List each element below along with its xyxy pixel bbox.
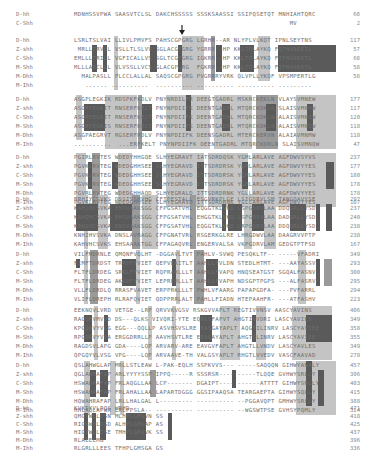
species-label: M-Shh xyxy=(16,333,33,342)
species-label: C-Shh xyxy=(16,113,33,122)
species-label: M-Ihh xyxy=(16,140,33,149)
sequence-text: ASGPLEGKIK RDSPKFKDLV PNYNRDILFR DEEGTGA… xyxy=(74,95,336,104)
sequence-row: M-Dhh ASGPAEGRVT RGSERFRDLV PNYNPDIIFK D… xyxy=(0,131,374,140)
position-number: 177 xyxy=(350,162,360,171)
species-label: Z-shh xyxy=(16,259,33,268)
position-number: 406 xyxy=(350,306,360,315)
position-number: 120 xyxy=(350,113,360,122)
position-number: 117 xyxy=(350,104,360,113)
position-number: 58 xyxy=(353,63,360,72)
sequence-text: RAGDSVLAPG GDA----LQP ARVARV-ARE EAVGVFA… xyxy=(74,342,336,351)
position-number: 294 xyxy=(350,286,360,295)
sequence-row: D-hh PGIRLRVTES WDEDYHHGQE SLHYEGRAVT IA… xyxy=(0,153,374,162)
position-number: 457 xyxy=(350,361,360,370)
position-number: 118 xyxy=(350,122,360,131)
sequence-text: QGLAHRAFAP ARLYYYYSSP IPPQ-----R SSSRSR-… xyxy=(74,370,336,379)
position-number: 297 xyxy=(350,195,360,204)
position-number: 336 xyxy=(350,444,360,453)
position-number: 349 xyxy=(350,342,360,351)
position-number: 293 xyxy=(350,259,360,268)
sequence-text: RAGQRVMVVD DS---QLKS VIVQRI-YTE EQRGSFAP… xyxy=(74,315,336,324)
position-number: 349 xyxy=(350,315,360,324)
sequence-text: LSRLTSLVAI LLIVLPMVFS PAHSCGPGRG LGRHR--… xyxy=(74,36,336,45)
sequence-text: QPGQYVLVSG VPG----LQP ARVAAVE-TH VALGSYA… xyxy=(74,351,336,360)
position-number: 396 xyxy=(350,370,360,379)
sequence-text: ASGRYEGKIS RNSERFKELT PNYNPDIIFK DEENTGA… xyxy=(74,122,336,131)
sequence-text: KAHVHCSVKS EHSAAAKTGG CFPAGAQVRL ENGERVA… xyxy=(74,240,336,249)
sequence-text: KPGQRVYVLG EGG---QQLLP ASVHSVSLRE EASGAY… xyxy=(74,324,336,333)
sequence-text: FIMFTDRDST TRRVFYVIET QEPVEKITLT AAHLLFV… xyxy=(74,259,336,268)
species-label: M-Shh xyxy=(16,122,33,131)
sequence-text: PGIRLRVTES WDEDYHHGQE SLHYEGRAVT IATSDRD… xyxy=(74,153,336,162)
alignment-figure: D-hh MDNHSSVPWA SAASVTCLSL DAKCHSSSSS SS… xyxy=(0,0,374,459)
species-label: M-Ihh xyxy=(16,351,33,360)
sequence-row: Z-shh MRLLTRVLL VSLLTLSLVV SGLACGPGRG YG… xyxy=(0,45,374,54)
position-number: 118 xyxy=(350,131,360,140)
sequence-row: C-Shh EMLLLTRILL VGFICALLVS SGLTCGPGRG I… xyxy=(0,54,374,63)
sequence-row: M-Dhh VLLFLDRDLQ RRASFVAVET ERPPRKLLLT P… xyxy=(0,286,374,295)
sequence-row: D-hh VILFMDRNLE QMQNFVQLHT -DGGAVLTVT PA… xyxy=(0,250,374,259)
position-number: 240 xyxy=(350,213,360,222)
species-label: Z-shh xyxy=(16,204,33,213)
species-label: Z-shh xyxy=(16,104,33,113)
species-label: D-hh xyxy=(16,361,29,370)
sequence-row: Z-shh KAHIHCSVKA ENSVAAKSGG CFPGSATVHL E… xyxy=(0,204,374,213)
sequence-text: HSWAHRAFAP FRLAHALLAA LAPARTDGGG GGSIPAA… xyxy=(74,388,336,397)
species-label: Z-shh xyxy=(16,162,33,171)
species-label: M-Shh xyxy=(16,388,33,397)
sequence-text: VILFMDRNLE QMQNFVQLHT -DGGAVLTVT PAHLV-S… xyxy=(74,250,336,259)
sequence-text: ASGRYEGKIT RNSERFKELT PNYNPDIIFK DEENTGA… xyxy=(74,113,336,122)
position-number: 178 xyxy=(350,180,360,189)
species-label: M-Dhh xyxy=(16,231,33,240)
sequence-text: EEKNQVLVRD VETGE--LRP QRVVKVGSV RSKGVVAP… xyxy=(74,306,336,315)
sequence-row: D-hh EEKNQVLVRD VETGE--LRP QRVVKVGSV RSK… xyxy=(0,306,374,315)
sequence-row: Z-shh PGVKLRVTEG WDEDGHHSEE SLHYEGRAVD I… xyxy=(0,162,374,171)
species-label: D-hh xyxy=(16,306,29,315)
sequence-text: HSWAHRAFAP FRLAQGLLAA LCP------- DGAIPT-… xyxy=(74,379,336,388)
sequence-row: M-Ihh VLIFLDREPH RLRAFQVIET QDPPRRLALT P… xyxy=(0,295,374,304)
position-number: 167 xyxy=(350,240,360,249)
species-label: M-Ihh xyxy=(16,240,33,249)
sequence-row: M-Ihh .......... ...ERFKELT PNYNPDIIFK D… xyxy=(0,140,374,149)
position-number: 238 xyxy=(350,222,360,231)
species-label: Z-shh xyxy=(16,370,33,379)
position-number: 60 xyxy=(353,10,360,19)
position-number: 300 xyxy=(350,268,360,277)
position-number: 355 xyxy=(350,333,360,342)
sequence-text: RPGQRVYVVA ERGGDRRLLP AAVHSVTLRE EEAGAYA… xyxy=(74,333,336,342)
sequence-text: MDNHSSVPWA SAASVTCLSL DAKCHSSSSS SSSKSAA… xyxy=(74,10,336,19)
sequence-text: MALPASLL PLCCLALLAL SAQSCGPGRG PVGRRRYVR… xyxy=(74,72,336,81)
species-label: M-Ihh xyxy=(16,444,33,453)
position-number: 223 xyxy=(350,295,360,304)
sequence-text: FLTFLDRDEG SRKLFYVIET RQPRARLLLT AAHLLFV… xyxy=(74,268,336,277)
position-number: 238 xyxy=(350,231,360,240)
species-label: D-hh xyxy=(16,153,29,162)
position-number: 180 xyxy=(350,171,360,180)
sequence-text: VLLFLDRDLQ RRASFVAVET ERPPRKLLLT PWHLVFA… xyxy=(74,286,336,295)
species-label: C-Shh xyxy=(16,19,33,28)
species-label: M-Dhh xyxy=(16,286,33,295)
position-number: 60 xyxy=(353,54,360,63)
species-label: C-Shh xyxy=(16,268,33,277)
position-number: 117 xyxy=(350,36,360,45)
species-label: M-Ihh xyxy=(16,81,33,90)
species-label: M-Dhh xyxy=(16,72,33,81)
species-label: C-Shh xyxy=(16,324,33,333)
sequence-text: QSLAHWGLAP MRLLSTLEAW L-PAK-EQLH SSPKVVS… xyxy=(74,361,336,370)
sequence-row: D-hh LSRLTSLVAI LLIVLPMVFS PAHSCGPGRG LG… xyxy=(0,36,374,45)
sequence-row: C-Shh FLTFLDRDEG SRKLFYVIET RQPRARLLLT A… xyxy=(0,268,374,277)
sequence-row: C-Shh KAHIHCSVKA EHSVAAKSGG CFPGSATVHL E… xyxy=(0,213,374,222)
sequence-text: MLLLARCLLL VLVSSLLVCS GLACGPGRG FGKRR--H… xyxy=(74,63,336,72)
sequence-text: FLTFLDRDEG AKKVFYVIET LEPRERLLLT AAHLLFV… xyxy=(74,277,336,286)
species-label: D-hh xyxy=(16,95,29,104)
sequence-text: MV xyxy=(74,19,336,28)
species-label: Z-shh xyxy=(16,45,33,54)
sequence-row: C-Shh HSWAHRAFAP FRLAQGLLAA LCP------- D… xyxy=(0,379,374,388)
species-label: M-Dhh xyxy=(16,342,33,351)
sequence-row: M-Shh MLLLARCLLL VLVSSLLVCS GLACGPGRG FG… xyxy=(0,63,374,72)
sequence-text: PGVKLRVTEG WDEDGHHSEE SLHYEGRAVD ITTSDRD… xyxy=(74,162,336,171)
position-number: 295 xyxy=(350,277,360,286)
sequence-text: KAHIHCSVKA EHSVAAKSGG CFPGSATVHL EHGGTKL… xyxy=(74,213,336,222)
sequence-row: C-Shh MV 2 xyxy=(0,19,374,28)
sequence-text: MRLLTRVLL VSLLTLSLVV SGLACGPGRG YGRRR--H… xyxy=(74,45,336,54)
